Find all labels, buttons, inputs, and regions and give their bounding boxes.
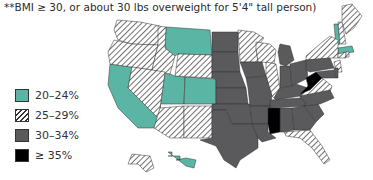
- state-montana: [165, 27, 212, 56]
- state-maine: [342, 4, 362, 34]
- state-north-dakota: [212, 32, 238, 52]
- state-florida: [284, 130, 330, 164]
- state-rhode-island: [346, 52, 349, 57]
- state-hawaii: [168, 152, 196, 168]
- state-colorado: [184, 77, 216, 104]
- state-alabama: [280, 108, 294, 132]
- state-wisconsin: [256, 42, 276, 64]
- us-map: [0, 0, 373, 180]
- state-nebraska: [212, 72, 246, 88]
- state-arkansas: [250, 106, 270, 124]
- state-south-dakota: [212, 52, 240, 72]
- state-new-york: [306, 36, 338, 60]
- state-ohio: [290, 60, 308, 86]
- state-new-mexico: [184, 106, 212, 138]
- state-iowa: [240, 62, 266, 78]
- state-kansas: [216, 88, 248, 104]
- state-wyoming: [175, 54, 212, 78]
- state-washington: [114, 20, 160, 45]
- state-michigan: [278, 44, 294, 66]
- state-pennsylvania: [306, 58, 334, 72]
- state-alaska: [128, 154, 154, 172]
- state-mississippi: [268, 108, 280, 134]
